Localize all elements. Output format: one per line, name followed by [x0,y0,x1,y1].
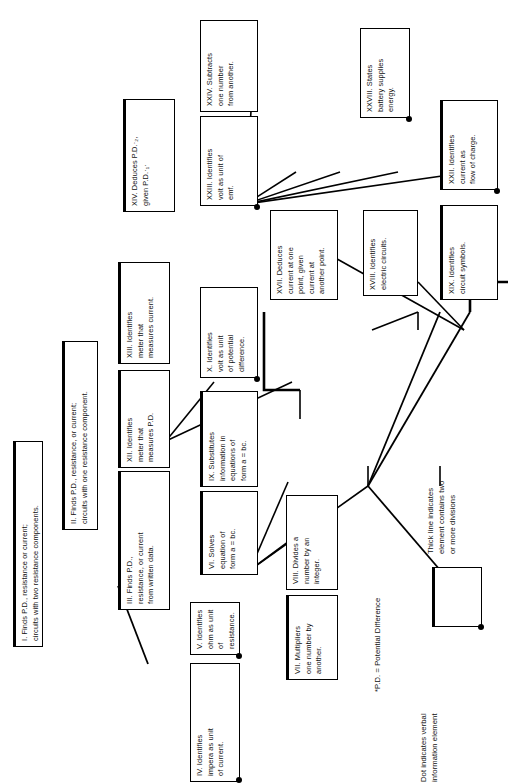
node-XXVIII-dot [406,116,412,122]
node-VI[interactable]: VI. Solves equation of form a = bc. [200,491,258,575]
node-III-label: III. Finds P.D., resistance, or current … [125,476,157,604]
legend-dot-text: Dot indicates verbal information element [418,632,440,782]
node-X-label: X. Identifies volt as unit of potential … [205,292,247,372]
node-XIV-label: XIV. Deduces P.D.·₂, given P.D.·₁· [130,104,151,206]
node-I-label: I. Finds P.D., resistance or current; ci… [20,446,41,641]
node-VII[interactable]: VII. Multipliers one number by another. [286,595,338,680]
node-XXIII-dot [254,204,260,210]
node-VIII-label: VIII. Divides a number by an integer. [291,500,323,584]
node-V[interactable]: V. Identifies ohm as unit of resistance. [190,602,240,655]
node-XXIV-label: XXIV. Subtracts one number from another. [205,25,237,106]
node-VIII[interactable]: VIII. Divides a number by an integer. [286,495,338,590]
node-II-label: II. Finds P.D., resistance, or current; … [69,346,90,524]
node-V-label: V. Identifies ohm as unit of resistance. [195,607,237,649]
node-XVII[interactable]: XVII. Deduces current at one point, give… [270,210,338,300]
node-II[interactable]: II. Finds P.D., resistance, or current; … [62,341,98,530]
node-XIX[interactable]: XIX. Identifies circuit symbols. [440,205,498,300]
node-XVII-label: XVII. Deduces current at one point, give… [275,215,328,294]
node-VII-label: VII. Multipliers one number by another. [293,600,325,674]
node-IX[interactable]: IX. Substitutes information in equations… [200,391,258,487]
node-XXIV[interactable]: XXIV. Subtracts one number from another. [200,20,258,112]
node-III[interactable]: III. Finds P.D., resistance, or current … [118,471,170,610]
node-XXII-label: XXII. Identifies current as flow of char… [447,105,479,184]
node-XVIII[interactable]: XVIII. Identifies electric circuits. [363,210,418,296]
node-XXVIII-label: XXVIII. States battery supplies energy. [365,33,397,112]
node-XXIII[interactable]: XXIII. Identifies volt as unit of emf. [200,116,258,206]
node-XXVIII[interactable]: XXVIII. States battery supplies energy. [360,28,410,118]
node-VI-label: VI. Solves equation of form a = bc. [207,496,239,569]
node-XII-label: XII. Identifies meter that measures P.D. [125,375,157,462]
node-IV[interactable]: IV. Identifies impera as unit of current… [190,663,240,782]
node-XIX-label: XIX. Identifies circuit symbols. [447,210,468,294]
node-X-dot [254,376,260,382]
node-IV-dot [236,777,242,783]
footnote-pd: *P.D. = Potential Difference [372,522,383,692]
legend-sample-dot [478,624,484,630]
legend-sample-box [432,567,482,627]
node-I[interactable]: I. Finds P.D., resistance or current; ci… [13,441,43,647]
node-XXII[interactable]: XXII. Identifies current as flow of char… [440,100,498,190]
node-XIII[interactable]: XIII. Identifies meter that measures cur… [118,262,170,364]
node-IV-label: IV. Identifies impera as unit of current… [195,668,227,776]
node-IX-label: IX. Substitutes information in equations… [207,396,249,481]
node-X[interactable]: X. Identifies volt as unit of potential … [200,287,258,378]
node-XXIII-label: XXIII. Identifies volt as unit of emf. [205,121,237,200]
node-XII[interactable]: XII. Identifies meter that measures P.D. [118,370,170,468]
legend-thick-text: Thick line indicates element contains tw… [425,384,458,554]
node-XIV[interactable]: XIV. Deduces P.D.·₂, given P.D.·₁· [123,99,175,212]
node-XXII-dot [494,188,500,194]
node-V-dot [236,653,242,659]
node-XIII-label: XIII. Identifies meter that measures cur… [125,267,157,358]
node-XVIII-label: XVIII. Identifies electric circuits. [368,215,389,290]
